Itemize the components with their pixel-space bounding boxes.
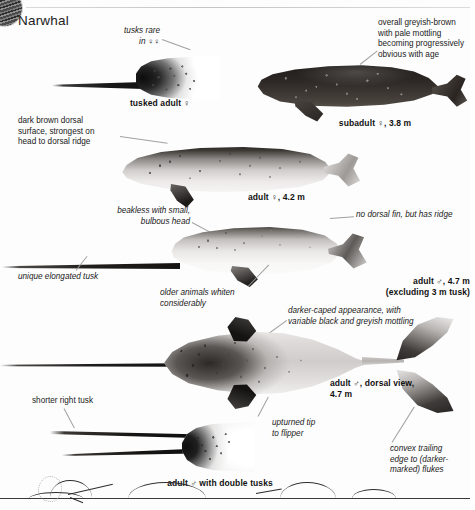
caption-dorsal-line2: 4.7 m [330, 389, 460, 400]
caption-adult-male-dorsal: adult ♂, dorsal view, 4.7 m [330, 378, 460, 400]
note-dark-brown-line1: dark brown dorsal [18, 116, 128, 127]
peduncle-shape [362, 354, 404, 368]
fluke-shape [432, 74, 472, 108]
caption-dorsal-line1: adult ♂, dorsal view, [330, 378, 460, 389]
note-tusks-rare-line2: in ♀♀ [70, 37, 160, 48]
tusk-right-shape [62, 446, 194, 456]
note-overall-greyish-brown: overall greyish-brown with pale mottling… [378, 18, 475, 60]
header-rule [26, 7, 470, 8]
surfacing-silhouette-5 [352, 489, 396, 500]
note-greyish-line1: overall greyish-brown [378, 18, 475, 29]
note-convex-line1: convex trailing [390, 444, 475, 455]
tusk-shape [2, 262, 180, 270]
note-older-animals-whiten: older animals whiten considerably [160, 288, 280, 309]
note-older-whiten-line1: older animals whiten [160, 288, 280, 299]
note-upturned-line1: upturned tip [272, 418, 362, 429]
note-beakless-line1: beakless with small, [78, 206, 190, 217]
tusk-shape [0, 362, 176, 368]
note-upturned-line2: to flipper [272, 429, 362, 440]
note-older-whiten-line2: considerably [160, 299, 280, 310]
fluke-shape [324, 152, 366, 188]
note-greyish-line2: with pale mottling [378, 29, 475, 40]
fluke-upper-shape [394, 316, 456, 364]
note-upturned-tip-to-flipper: upturned tip to flipper [272, 418, 362, 439]
caption-adult-female: adult ♀, 4.2 m [248, 192, 368, 203]
figure-adult-male-lateral [2, 218, 352, 298]
note-unique-elongated-tusk: unique elongated tusk [18, 272, 138, 283]
tusk-shape [52, 82, 144, 89]
caption-adult-male-line1: adult ♂, 4.7 m [362, 276, 470, 287]
figure-subadult-female [244, 58, 458, 116]
note-no-dorsal-fin: no dorsal fin, but has ridge [356, 210, 474, 221]
note-convex-line2: edge to (darker- [390, 455, 475, 466]
caption-adult-male-line2: (excluding 3 m tusk) [362, 287, 470, 298]
page-title: Narwhal [18, 13, 69, 28]
caption-subadult-female: subadult ♀, 3.8 m [300, 118, 450, 129]
note-tusks-rare-line1: tusks rare [70, 26, 160, 37]
surfacing-tusk-3 [256, 488, 282, 494]
fluke-shape [328, 232, 372, 270]
note-shorter-right-tusk: shorter right tusk [32, 396, 142, 407]
figure-adult-male-double-tusks [40, 420, 270, 476]
note-dark-brown-line2: surface, strongest on [18, 127, 128, 138]
note-greyish-line3: becoming progressively [378, 39, 475, 50]
caption-tusked-adult-female: tusked adult ♀ [100, 98, 220, 109]
caption-adult-male-lateral: adult ♂, 4.7 m (excluding 3 m tusk) [362, 276, 470, 298]
tusk-left-shape [50, 430, 194, 438]
figure-tusked-adult-female [52, 52, 220, 104]
surfacing-silhouette-3 [128, 482, 206, 500]
surfacing-silhouette-4 [280, 482, 336, 500]
figure-surfacing-sequence [0, 470, 470, 510]
leader-tusks-rare [162, 39, 191, 50]
note-tusks-rare: tusks rare in ♀♀ [70, 26, 160, 47]
